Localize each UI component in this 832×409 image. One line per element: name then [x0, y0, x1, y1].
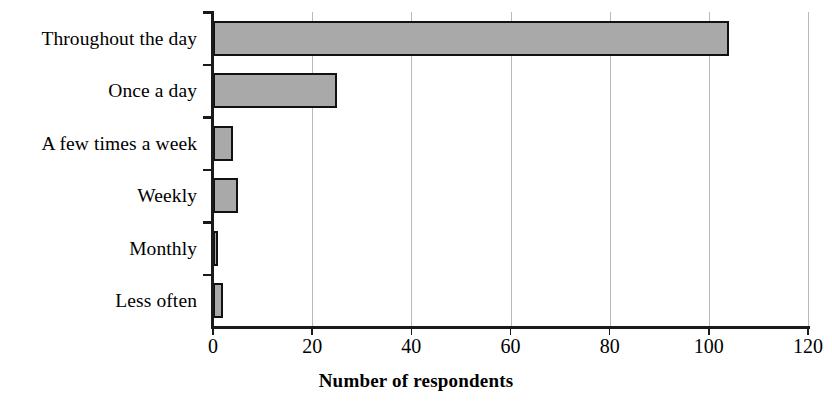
y-axis-label-3: Weekly [0, 170, 206, 223]
y-axis-label-4: Monthly [0, 222, 206, 275]
y-axis-tick [203, 169, 213, 172]
bar [213, 73, 337, 108]
y-axis-top-tick [203, 11, 213, 14]
bar-band [213, 222, 218, 275]
bar [213, 21, 729, 56]
plot-area [213, 12, 808, 327]
bar-band [213, 117, 233, 170]
x-axis-tick-label-60: 60 [501, 336, 521, 356]
y-axis-tick [203, 64, 213, 67]
x-axis-tick-20 [311, 326, 313, 335]
y-axis-tick [203, 274, 213, 277]
y-axis-tick [203, 221, 213, 224]
y-axis-label-2: A few times a week [0, 117, 206, 170]
y-axis-category-labels: Throughout the day Once a day A few time… [0, 12, 206, 327]
gridline-120 [808, 12, 809, 327]
y-axis-label-0: Throughout the day [0, 12, 206, 65]
bar [213, 231, 218, 266]
x-axis-title: Number of respondents [0, 370, 832, 392]
bar-band [213, 170, 238, 223]
x-axis-tick-label-80: 80 [600, 336, 620, 356]
bar-band [213, 65, 337, 118]
x-axis-tick-label-20: 20 [302, 336, 322, 356]
x-axis-tick-120 [807, 326, 809, 335]
x-axis-tick-40 [411, 326, 413, 335]
y-axis-label-5: Less often [0, 275, 206, 328]
x-axis-tick-label-120: 120 [793, 336, 823, 356]
bar [213, 283, 223, 318]
x-axis-tick-label-100: 100 [694, 336, 724, 356]
bar [213, 126, 233, 161]
bar-chart: Throughout the day Once a day A few time… [0, 0, 832, 409]
y-axis-label-1: Once a day [0, 65, 206, 118]
y-axis-tick [203, 116, 213, 119]
x-axis-tick-label-0: 0 [208, 336, 218, 356]
x-axis-tick-100 [708, 326, 710, 335]
bar-band [213, 12, 729, 65]
x-axis-tick-80 [609, 326, 611, 335]
x-axis-tick-0 [212, 326, 214, 335]
x-axis-tick-60 [510, 326, 512, 335]
bar-band [213, 275, 223, 328]
x-axis-tick-label-40: 40 [401, 336, 421, 356]
bar [213, 178, 238, 213]
